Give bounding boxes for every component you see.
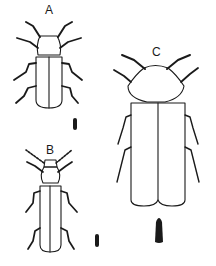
silhouette-b (95, 234, 99, 247)
beetle-c-drawing (114, 55, 199, 206)
silhouette-c (155, 218, 163, 243)
beetle-b-drawing (26, 150, 77, 252)
silhouette-a (73, 118, 77, 130)
beetle-a-drawing (14, 22, 82, 108)
